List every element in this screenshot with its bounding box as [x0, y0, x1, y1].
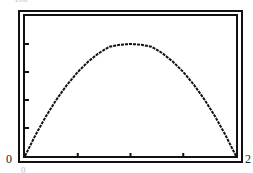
y-max-label-partial: 100: [14, 0, 28, 4]
outer-frame: [19, 11, 242, 162]
x-max-label: 2: [245, 153, 251, 165]
x-axis-ticks: [78, 153, 184, 156]
parabola-chart: [0, 0, 253, 173]
plot-frame: [24, 15, 237, 157]
y-axis-ticks: [25, 44, 29, 128]
x-min-label: 0: [6, 153, 12, 165]
x-bottom-label-partial: 0: [21, 166, 26, 173]
parabola-curve: [25, 44, 236, 156]
